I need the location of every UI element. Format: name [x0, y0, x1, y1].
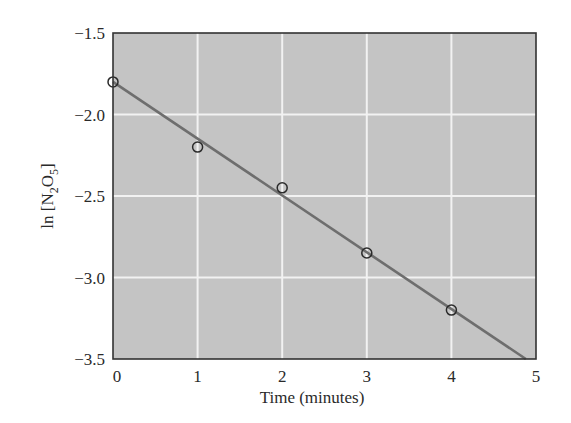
y-tick-label: −3.0 [74, 269, 105, 288]
x-tick-label: 4 [447, 367, 456, 386]
y-tick-label: −2.0 [74, 106, 105, 125]
x-tick-label: 0 [113, 367, 122, 386]
chart: 012345 −1.5−2.0−2.5−3.0−3.5 Time (minute… [0, 0, 571, 423]
x-tick-label: 3 [363, 367, 372, 386]
x-tick-label: 5 [532, 367, 541, 386]
x-axis-label: Time (minutes) [260, 388, 365, 407]
y-tick-label: −3.5 [74, 350, 105, 369]
x-tick-label: 2 [278, 367, 287, 386]
y-axis-label: ln [N2O5] [38, 163, 61, 228]
y-axis-ticks: −1.5−2.0−2.5−3.0−3.5 [74, 24, 105, 369]
x-axis-ticks: 012345 [113, 367, 541, 386]
x-tick-label: 1 [193, 367, 202, 386]
y-tick-label: −2.5 [74, 187, 105, 206]
y-tick-label: −1.5 [74, 24, 105, 43]
